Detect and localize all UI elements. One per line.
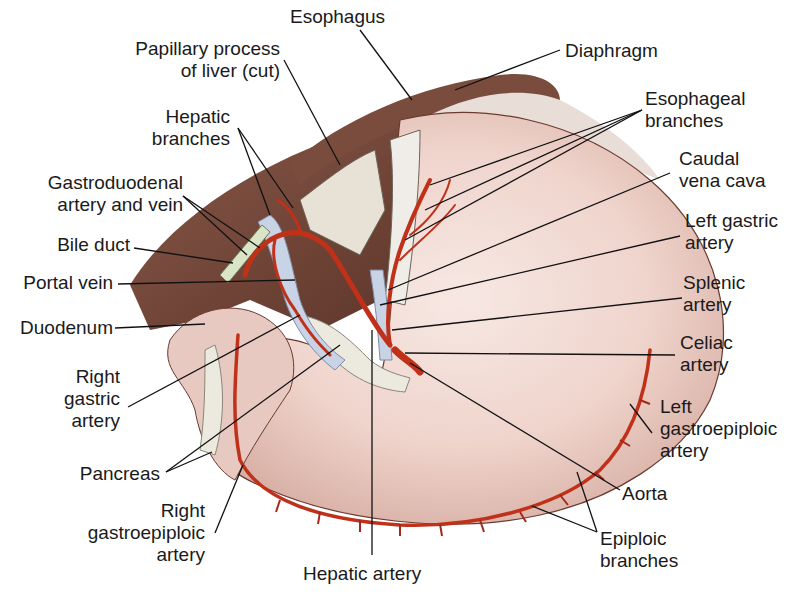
label-hepatic-artery: Hepatic artery xyxy=(303,563,421,585)
label-right-gastroepiploic-artery: Right gastroepiploic artery xyxy=(50,500,205,566)
label-caudal-vena-cava: Caudal vena cava xyxy=(679,148,766,192)
label-pancreas: Pancreas xyxy=(40,463,160,485)
label-splenic-artery: Splenic artery xyxy=(683,272,745,316)
label-epiploic-branches: Epiploic branches xyxy=(600,528,678,572)
label-celiac-artery: Celiac artery xyxy=(680,332,733,376)
label-duodenum: Duodenum xyxy=(5,317,113,339)
label-esophagus: Esophagus xyxy=(290,6,385,28)
label-esophageal-branches: Esophageal branches xyxy=(645,88,745,132)
label-hepatic-branches: Hepatic branches xyxy=(130,106,230,150)
label-portal-vein: Portal vein xyxy=(5,272,113,294)
label-aorta: Aorta xyxy=(622,483,667,505)
label-right-gastric-artery: Right gastric artery xyxy=(30,366,120,432)
anatomy-figure: Esophagus Papillary process of liver (cu… xyxy=(0,0,794,594)
label-diaphragm: Diaphragm xyxy=(565,40,658,62)
label-papillary-process: Papillary process of liver (cut) xyxy=(120,38,280,82)
label-bile-duct: Bile duct xyxy=(30,234,130,256)
label-gastroduodenal: Gastroduodenal artery and vein xyxy=(20,172,183,216)
label-left-gastroepiploic-artery: Left gastroepiploic artery xyxy=(660,396,777,462)
label-left-gastric-artery: Left gastric artery xyxy=(685,210,778,254)
